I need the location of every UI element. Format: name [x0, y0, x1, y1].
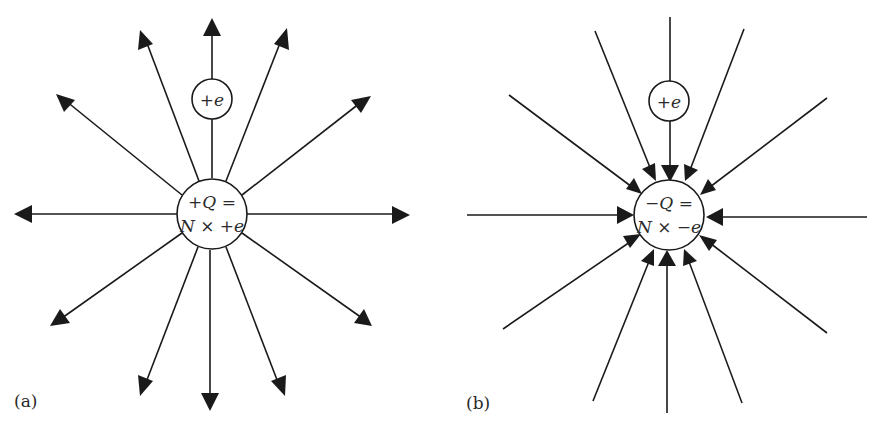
field-line — [242, 103, 360, 195]
arrowhead-icon — [626, 178, 642, 194]
source-charge-line1: −Q = — [645, 193, 693, 213]
arrowhead-icon — [56, 94, 75, 112]
arrowhead-icon — [354, 309, 372, 326]
test-charge-label: +e — [657, 92, 681, 112]
panel-label-a: (a) — [14, 391, 37, 411]
source-charge-line1: +Q = — [188, 192, 236, 212]
field-line — [503, 242, 630, 329]
arrowhead-icon — [271, 375, 286, 396]
arrowhead-icon — [700, 179, 716, 195]
field-line — [226, 247, 279, 385]
source-charge-circle — [634, 180, 704, 250]
field-line — [509, 95, 632, 187]
panel-a-source-charge: +Q = N × +e — [177, 179, 247, 249]
panel-label-b: (b) — [466, 393, 490, 413]
arrowhead-icon — [617, 206, 634, 224]
arrowhead-icon — [14, 205, 32, 223]
arrowhead-icon — [138, 30, 153, 50]
arrowhead-icon — [201, 393, 219, 411]
panel-a-test-charge: +e — [192, 79, 232, 119]
arrowhead-icon — [203, 18, 221, 36]
field-line — [595, 31, 651, 170]
arrowhead-icon — [274, 28, 289, 50]
source-charge-line2: N × −e — [636, 217, 701, 237]
electric-field-diagram: +e +Q = N × +e (a) + — [0, 0, 875, 433]
arrowhead-icon — [138, 375, 153, 396]
panel-b-test-charge: +e — [649, 81, 689, 121]
source-charge-circle — [177, 179, 247, 249]
test-charge-label: +e — [200, 90, 224, 110]
field-line — [62, 233, 182, 318]
field-line — [710, 243, 827, 333]
arrowhead-icon — [683, 249, 697, 266]
arrowhead-icon — [699, 235, 717, 251]
field-line — [690, 29, 744, 170]
arrowhead-icon — [641, 249, 654, 266]
arrowhead-icon — [50, 309, 70, 326]
arrowhead-icon — [658, 250, 676, 266]
field-line — [710, 98, 827, 187]
field-line — [242, 233, 362, 318]
field-line — [145, 247, 198, 385]
arrowhead-icon — [351, 96, 371, 113]
source-charge-line2: N × +e — [179, 216, 244, 236]
field-line — [66, 101, 182, 195]
field-line — [145, 38, 199, 181]
arrowhead-icon — [392, 206, 410, 224]
field-line — [688, 259, 742, 403]
field-line — [593, 259, 650, 401]
panel-b-source-charge: −Q = N × −e — [634, 180, 704, 250]
arrowhead-icon — [706, 208, 723, 226]
field-line — [226, 38, 282, 181]
